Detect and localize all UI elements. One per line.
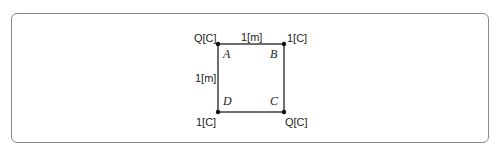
label-a: A bbox=[223, 48, 230, 60]
side-left-length: 1[m] bbox=[195, 72, 216, 84]
label-d: D bbox=[223, 95, 232, 107]
square-diagram bbox=[0, 0, 498, 154]
label-c: C bbox=[270, 95, 278, 107]
charge-d: 1[C] bbox=[196, 116, 216, 128]
point-d-dot bbox=[216, 110, 220, 114]
charge-a: Q[C] bbox=[194, 32, 217, 44]
side-top-length: 1[m] bbox=[241, 31, 262, 43]
point-c-dot bbox=[282, 110, 286, 114]
point-b-dot bbox=[282, 42, 286, 46]
charge-b: 1[C] bbox=[287, 32, 307, 44]
label-b: B bbox=[270, 48, 277, 60]
charge-c: Q[C] bbox=[285, 116, 308, 128]
